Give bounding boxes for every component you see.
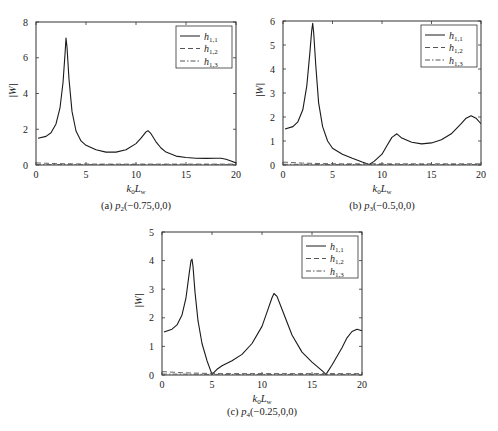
y-axis-label: |W| xyxy=(254,83,265,98)
y-tick-label: 8 xyxy=(23,17,28,28)
subplot-a: 0510152002468|W|k0Lw(a) p2(−0.75,0,0)h1,… xyxy=(7,17,241,214)
x-tick-label: 10 xyxy=(377,169,387,180)
x-tick-label: 10 xyxy=(131,169,141,180)
y-tick-label: 0 xyxy=(270,160,275,171)
x-axis-label: k0Lw xyxy=(126,183,146,196)
y-tick-label: 1 xyxy=(270,136,275,147)
subplot-caption: (c) p4(−0.25,0,0) xyxy=(227,406,298,419)
y-tick-label: 4 xyxy=(149,255,154,266)
y-axis-label: |W| xyxy=(133,293,144,308)
legend: h1,1h1,2h1,3 xyxy=(176,26,232,69)
x-tick-label: 5 xyxy=(84,169,89,180)
y-axis-label: |W| xyxy=(7,83,18,98)
x-tick-label: 20 xyxy=(357,379,367,390)
x-tick-label: 15 xyxy=(307,379,317,390)
x-tick-label: 20 xyxy=(231,169,241,180)
y-tick-label: 3 xyxy=(270,88,275,99)
y-tick-label: 1 xyxy=(149,341,154,352)
x-tick-label: 0 xyxy=(281,169,286,180)
x-axis-label: k0Lw xyxy=(252,393,272,406)
legend: h1,1h1,2h1,3 xyxy=(421,25,477,68)
figure: 0510152002468|W|k0Lw(a) p2(−0.75,0,0)h1,… xyxy=(0,0,498,431)
y-tick-label: 2 xyxy=(23,124,28,135)
y-tick-label: 5 xyxy=(149,227,154,238)
x-tick-label: 5 xyxy=(330,169,335,180)
y-tick-label: 0 xyxy=(23,160,28,171)
x-tick-label: 10 xyxy=(257,379,267,390)
subplot-c: 05101520012345|W|k0Lw(c) p4(−0.25,0,0)h1… xyxy=(133,227,367,420)
y-tick-label: 6 xyxy=(23,52,28,63)
subplot-caption: (b) p3(−0.5,0,0) xyxy=(349,200,415,213)
legend: h1,1h1,2h1,3 xyxy=(302,236,358,279)
x-tick-label: 5 xyxy=(210,379,215,390)
x-tick-label: 15 xyxy=(427,169,437,180)
y-tick-label: 3 xyxy=(149,284,154,295)
subplot-caption: (a) p2(−0.75,0,0) xyxy=(101,200,172,213)
y-tick-label: 4 xyxy=(270,64,275,75)
y-tick-label: 5 xyxy=(270,40,275,51)
y-tick-label: 4 xyxy=(23,88,28,99)
x-axis-label: k0Lw xyxy=(372,183,392,196)
y-tick-label: 6 xyxy=(270,16,275,27)
x-tick-label: 0 xyxy=(34,169,39,180)
x-tick-label: 15 xyxy=(181,169,191,180)
y-tick-label: 2 xyxy=(270,112,275,123)
y-tick-label: 2 xyxy=(149,312,154,323)
x-tick-label: 0 xyxy=(160,379,165,390)
y-tick-label: 0 xyxy=(149,370,154,381)
x-tick-label: 20 xyxy=(476,169,486,180)
subplot-b: 051015200123456|W|k0Lw(b) p3(−0.5,0,0)h1… xyxy=(254,16,486,214)
